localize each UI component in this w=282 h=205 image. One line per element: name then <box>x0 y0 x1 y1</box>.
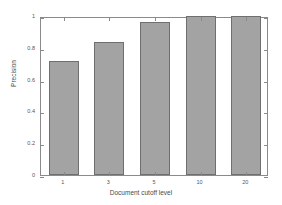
y-tick-label: 0.2 <box>9 141 35 147</box>
bar <box>140 22 170 175</box>
x-tick-mark <box>201 172 202 176</box>
x-tick-label: 5 <box>139 180 169 186</box>
x-tick-label: 20 <box>230 180 260 186</box>
x-tick-label: 3 <box>93 180 123 186</box>
y-tick-mark-right <box>264 113 268 114</box>
plot-area <box>40 17 268 176</box>
x-tick-mark-top <box>109 17 110 21</box>
y-tick-mark-right <box>264 145 268 146</box>
y-tick-mark <box>40 177 44 178</box>
x-tick-mark-top <box>155 17 156 21</box>
y-tick-mark-right <box>264 82 268 83</box>
y-tick-mark <box>40 113 44 114</box>
y-tick-label: 0 <box>9 173 35 179</box>
y-tick-mark <box>40 50 44 51</box>
x-tick-mark <box>246 172 247 176</box>
y-tick-label: 0.4 <box>9 109 35 115</box>
y-tick-mark-right <box>264 50 268 51</box>
x-tick-mark <box>64 172 65 176</box>
bar <box>94 42 124 175</box>
x-tick-label: 1 <box>48 180 78 186</box>
y-tick-mark <box>40 18 44 19</box>
x-tick-mark-top <box>64 17 65 21</box>
bar-series <box>41 18 267 175</box>
bar <box>186 16 216 175</box>
x-tick-mark <box>109 172 110 176</box>
y-tick-label: 1 <box>9 14 35 20</box>
y-axis-title: Precision <box>10 44 17 104</box>
x-tick-label: 10 <box>185 180 215 186</box>
bar <box>49 61 79 175</box>
bar-chart-figure: 00.20.40.60.81 1351020 Document cutoff l… <box>0 0 282 205</box>
bar <box>231 16 261 175</box>
x-tick-mark-top <box>246 17 247 21</box>
x-tick-mark-top <box>201 17 202 21</box>
y-tick-mark-right <box>264 18 268 19</box>
x-axis-title: Document cutoff level <box>0 189 282 196</box>
y-tick-mark-right <box>264 177 268 178</box>
y-tick-mark <box>40 145 44 146</box>
y-tick-mark <box>40 82 44 83</box>
x-tick-mark <box>155 172 156 176</box>
